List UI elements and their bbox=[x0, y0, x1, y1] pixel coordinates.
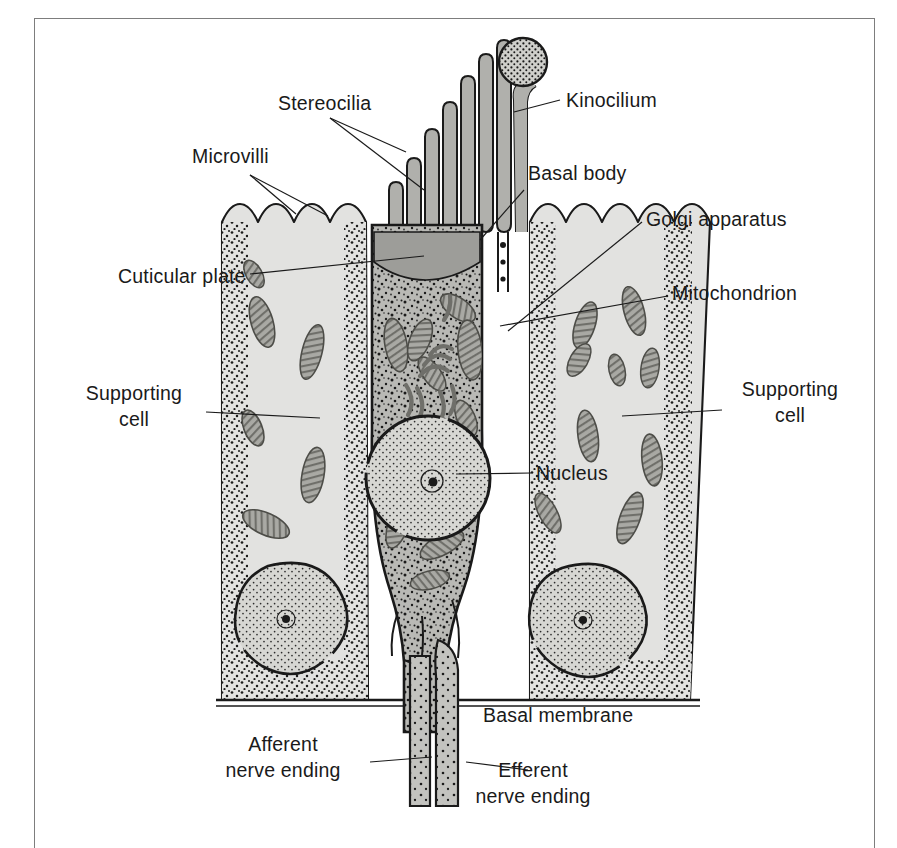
label-basal-membrane: Basal membrane bbox=[483, 704, 633, 726]
label-supporting-cell-left: Supporting cell bbox=[86, 382, 182, 430]
stereocilium bbox=[479, 54, 493, 232]
svg-text:Supporting: Supporting bbox=[742, 378, 838, 400]
microvilli-leader-2 bbox=[250, 175, 328, 216]
supporting-cell-right bbox=[529, 204, 710, 702]
svg-text:Efferent: Efferent bbox=[498, 759, 568, 781]
hair-cell-nucleus bbox=[366, 416, 490, 540]
svg-text:cell: cell bbox=[775, 404, 805, 426]
label-microvilli: Microvilli bbox=[192, 145, 269, 167]
label-kinocilium: Kinocilium bbox=[566, 89, 657, 111]
stereocilia-leader-1 bbox=[330, 118, 424, 190]
stereocilium bbox=[407, 158, 421, 232]
svg-text:Afferent: Afferent bbox=[248, 733, 318, 755]
label-afferent-nerve-ending: Afferent nerve ending bbox=[225, 733, 340, 781]
label-efferent-nerve-ending: Efferent nerve ending bbox=[475, 759, 590, 807]
label-nucleus: Nucleus bbox=[536, 462, 608, 484]
label-supporting-cell-right: Supporting cell bbox=[742, 378, 838, 426]
label-stereocilia: Stereocilia bbox=[278, 92, 371, 114]
basal-body bbox=[498, 232, 508, 292]
label-mitochondrion: Mitochondrion bbox=[672, 282, 797, 304]
svg-text:nerve ending: nerve ending bbox=[475, 785, 590, 807]
kinocilium-bulb bbox=[499, 38, 547, 86]
afferent-nerve-ending bbox=[410, 656, 430, 806]
label-golgi-apparatus: Golgi apparatus bbox=[646, 208, 787, 230]
label-basal-body: Basal body bbox=[528, 162, 627, 184]
stereocilium bbox=[425, 129, 439, 232]
stereocilium bbox=[443, 102, 457, 232]
svg-text:Supporting: Supporting bbox=[86, 382, 182, 404]
label-cuticular-plate: Cuticular plate bbox=[118, 265, 246, 287]
stereocilium bbox=[461, 76, 475, 232]
stereocilia-bundle bbox=[389, 40, 511, 234]
svg-text:cell: cell bbox=[119, 408, 149, 430]
efferent-nerve-ending bbox=[435, 640, 458, 806]
svg-text:nerve ending: nerve ending bbox=[225, 759, 340, 781]
